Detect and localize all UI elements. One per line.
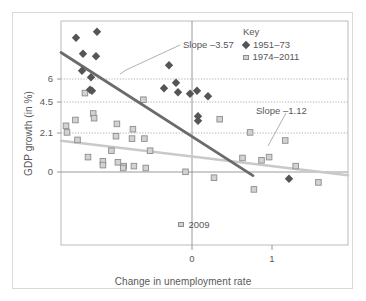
legend: Key 1951–73 1974–2011 bbox=[243, 26, 299, 64]
legend-label-1974-2011: 1974–2011 bbox=[253, 51, 300, 64]
annotation-slope-shallow: Slope –1.12 bbox=[256, 105, 307, 116]
x-tick-label-1: 1 bbox=[259, 253, 285, 264]
annotation-slope-steep: Slope –3.57 bbox=[183, 39, 234, 50]
filled-diamond-icon bbox=[242, 41, 250, 49]
x-tick-label-0: 0 bbox=[179, 253, 205, 264]
y-tick-label-4-5: 4.5 bbox=[27, 96, 53, 107]
y-tick-label-6: 6 bbox=[27, 73, 53, 84]
legend-item-1974-2011: 1974–2011 bbox=[243, 51, 299, 64]
open-square-icon bbox=[243, 55, 249, 61]
y-tick-label-2-1: 2.1 bbox=[27, 127, 53, 138]
y-tick-label-0: 0 bbox=[27, 166, 53, 177]
annotation-2009-label: 2009 bbox=[189, 219, 210, 230]
legend-title: Key bbox=[243, 26, 299, 39]
chart-figure: GDP growth (in %) Change in unemployment… bbox=[0, 0, 366, 301]
annotation-2009: 2009 bbox=[178, 219, 210, 230]
legend-label-1951-73: 1951–73 bbox=[253, 39, 290, 52]
legend-item-1951-73: 1951–73 bbox=[243, 39, 299, 52]
open-square-icon bbox=[178, 222, 184, 228]
tick-marks bbox=[57, 79, 272, 250]
x-axis-title: Change in unemployment rate bbox=[0, 276, 366, 287]
